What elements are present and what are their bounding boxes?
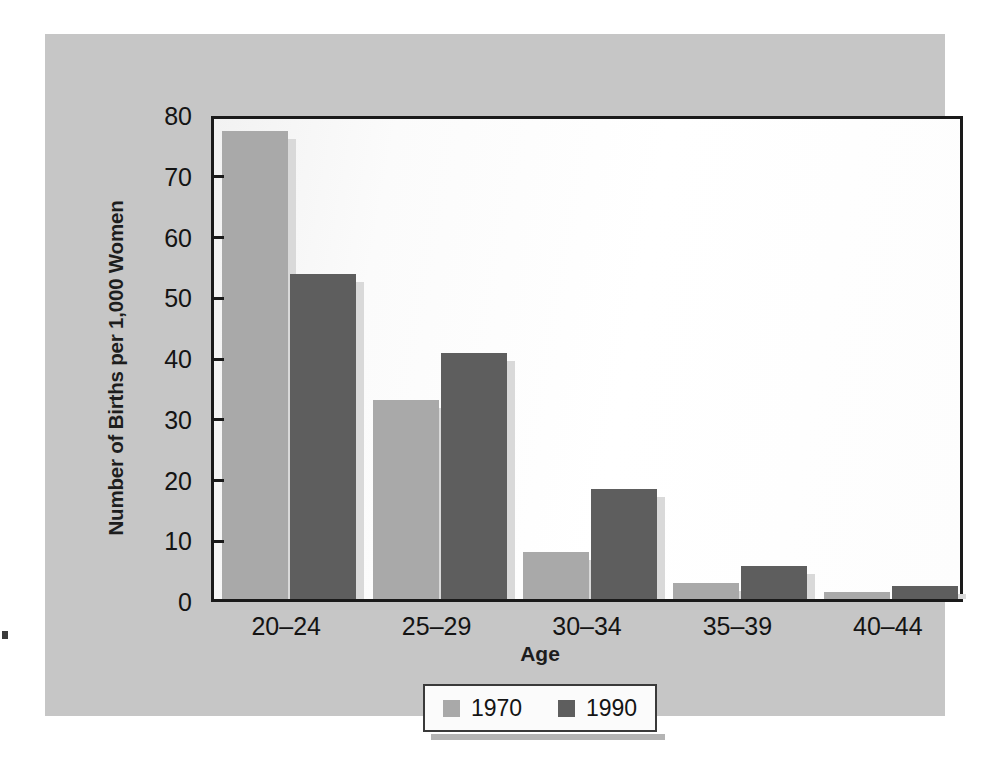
legend-item-1970: 1970 — [443, 695, 522, 722]
x-axis-tick-label: 25–29 — [402, 612, 472, 641]
bar-1990-35-39 — [741, 566, 807, 599]
bar-1970-25-29 — [373, 400, 439, 599]
x-axis-tick-label: 30–34 — [552, 612, 622, 641]
y-axis-tick-label: 60 — [164, 223, 192, 252]
y-axis-tick — [211, 236, 224, 239]
figure-panel: Number of Births per 1,000 Women 0102030… — [45, 34, 945, 716]
bar-shadow — [657, 497, 665, 599]
legend-label-1970: 1970 — [471, 695, 522, 722]
y-axis-tick-label: 70 — [164, 162, 192, 191]
legend-swatch-1970-icon — [443, 700, 460, 717]
y-axis-tick — [211, 540, 224, 543]
legend-swatch-1990-icon — [558, 700, 575, 717]
y-axis-tick-label: 30 — [164, 405, 192, 434]
x-axis-tick-label: 40–44 — [853, 612, 923, 641]
y-axis-tick — [211, 297, 224, 300]
y-axis-tick-label: 0 — [178, 588, 192, 617]
bar-1990-25-29 — [441, 353, 507, 599]
y-axis-tick-label: 10 — [164, 527, 192, 556]
x-axis-tick-label: 35–39 — [703, 612, 773, 641]
bar-1970-40-44 — [824, 592, 890, 599]
y-axis-tick-label: 20 — [164, 466, 192, 495]
bar-shadow — [807, 574, 815, 599]
y-axis-title: Number of Births per 1,000 Women — [104, 158, 128, 578]
bar-1970-20-24 — [222, 131, 288, 599]
y-axis-tick — [211, 175, 224, 178]
y-axis-tick-label: 40 — [164, 345, 192, 374]
bar-1990-40-44 — [892, 586, 958, 599]
bar-shadow — [356, 282, 364, 599]
x-axis-tick-label: 20–24 — [251, 612, 321, 641]
plot-area — [211, 116, 963, 602]
bar-1970-30-34 — [523, 552, 589, 599]
bar-1990-30-34 — [591, 489, 657, 599]
chart-legend: 1970 1990 — [423, 684, 657, 732]
bar-1990-20-24 — [290, 274, 356, 599]
x-axis-title: Age — [45, 642, 990, 666]
y-axis-tick — [211, 418, 224, 421]
bar-1970-35-39 — [673, 583, 739, 599]
y-axis-tick-label: 50 — [164, 284, 192, 313]
y-axis-tick-label: 80 — [164, 102, 192, 131]
scan-artifact — [2, 631, 8, 639]
legend-label-1990: 1990 — [586, 695, 637, 722]
bar-shadow — [507, 361, 515, 599]
y-axis-tick — [211, 479, 224, 482]
legend-item-1990: 1990 — [558, 695, 637, 722]
bar-shadow — [958, 594, 966, 599]
y-axis-tick — [211, 358, 224, 361]
